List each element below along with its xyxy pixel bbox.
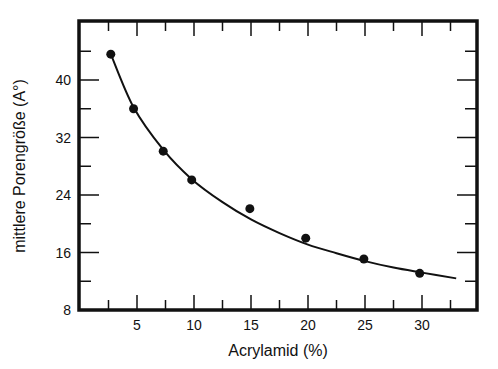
data-points — [106, 50, 424, 278]
fit-curve — [111, 54, 456, 278]
y-tick-label: 40 — [55, 72, 71, 88]
y-tick-labels: 816243240 — [55, 72, 71, 318]
y-tick-label: 8 — [63, 302, 71, 318]
data-point — [106, 50, 115, 59]
y-tick-label: 16 — [55, 245, 71, 261]
x-axis-label: Acrylamid (%) — [228, 342, 328, 359]
x-tick-labels: 51015202530 — [133, 317, 430, 333]
y-tick-label: 24 — [55, 187, 71, 203]
y-axis-label: mittlere Porengröße (A°) — [11, 79, 28, 253]
data-point — [159, 147, 168, 156]
data-point — [245, 204, 254, 213]
x-tick-label: 25 — [357, 317, 373, 333]
data-point — [359, 254, 368, 263]
y-tick-label: 32 — [55, 130, 71, 146]
chart: 51015202530 816243240 Acrylamid (%) mitt… — [0, 0, 498, 369]
data-point — [415, 269, 424, 278]
x-tick-label: 30 — [414, 317, 430, 333]
x-tick-label: 10 — [186, 317, 202, 333]
axis-ticks — [79, 21, 477, 310]
x-tick-label: 15 — [243, 317, 259, 333]
x-tick-label: 20 — [300, 317, 316, 333]
plot-border — [79, 21, 477, 310]
plot-frame — [79, 21, 477, 310]
data-point — [129, 104, 138, 113]
x-tick-label: 5 — [133, 317, 141, 333]
data-point — [187, 175, 196, 184]
data-point — [301, 234, 310, 243]
